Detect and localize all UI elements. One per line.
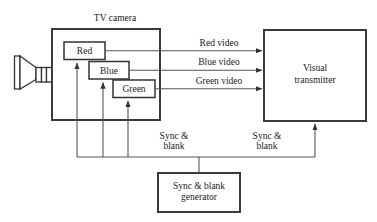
sync-blank-camera-line1: Sync & (160, 131, 189, 141)
green-video-label: Green video (196, 76, 243, 86)
blue-channel-label: Blue (100, 65, 118, 75)
sync-blank-camera-label: Sync & blank (160, 131, 189, 152)
visual-transmitter-line2: transmitter (294, 75, 335, 85)
camera-title-label: TV camera (94, 13, 136, 23)
red-channel-label: Red (77, 46, 92, 56)
diagram-canvas: TV camera Red Blue Green Red video Blue … (0, 0, 377, 222)
visual-transmitter-line1: Visual (303, 63, 327, 73)
red-video-label: Red video (200, 38, 239, 48)
camera-lens-icon (15, 56, 53, 89)
visual-transmitter-label: Visual transmitter (294, 63, 335, 87)
sync-blank-generator-line2: generator (181, 193, 217, 203)
sync-blank-transmitter-line1: Sync & (253, 131, 282, 141)
blue-video-label: Blue video (198, 57, 239, 67)
sync-blank-transmitter-label: Sync & blank (253, 131, 282, 152)
green-channel-label: Green (122, 84, 145, 94)
sync-blank-camera-line2: blank (163, 141, 184, 151)
sync-blank-generator-line1: Sync & blank (173, 181, 225, 191)
sync-blank-transmitter-line2: blank (256, 141, 277, 151)
sync-blank-generator-label: Sync & blank generator (173, 181, 225, 205)
